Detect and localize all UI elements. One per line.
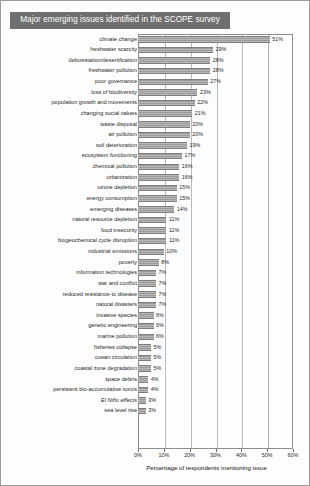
bar-row: El Niño effects3% xyxy=(1,395,310,406)
bar xyxy=(138,89,197,96)
bar-value-label: 14% xyxy=(177,207,188,212)
bar-container: 7% xyxy=(138,268,293,279)
bar-value-label: 10% xyxy=(166,249,177,254)
bar xyxy=(138,185,177,192)
bar xyxy=(138,270,156,277)
bar-row: food insecurity11% xyxy=(1,225,310,236)
bar-category-label: persistent bio-accumulative toxics xyxy=(9,387,137,393)
bar-container: 7% xyxy=(138,289,293,300)
bar-value-label: 4% xyxy=(151,387,159,392)
bar xyxy=(138,47,213,54)
bar-category-label: changing social values xyxy=(9,111,137,117)
bar-value-label: 7% xyxy=(159,292,167,297)
bar-category-label: ocean circulation xyxy=(9,355,137,361)
x-axis-title: Percentage of respondents mentioning iss… xyxy=(129,465,284,471)
bar-container: 5% xyxy=(138,342,293,353)
bar-container: 7% xyxy=(138,278,293,289)
bar-value-label: 23% xyxy=(200,90,211,95)
bar-category-label: natural resource depletion xyxy=(9,217,137,223)
bar-row: freshwater pollution28% xyxy=(1,66,310,77)
bar-value-label: 22% xyxy=(197,100,208,105)
bar xyxy=(138,227,166,234)
bar xyxy=(138,249,164,256)
bar-row: industrial emissions10% xyxy=(1,247,310,258)
bar xyxy=(138,408,146,415)
bar-category-label: air pollution xyxy=(9,132,137,138)
bar-container: 21% xyxy=(138,108,293,119)
bar-value-label: 3% xyxy=(148,398,156,403)
bar-value-label: 29% xyxy=(215,47,226,52)
bar-row: marine pollution6% xyxy=(1,332,310,343)
bar-category-label: coastal zone degradation xyxy=(9,366,137,372)
bar-value-label: 15% xyxy=(179,185,190,190)
bar-row: emerging diseases14% xyxy=(1,204,310,215)
bar xyxy=(138,153,182,160)
bar xyxy=(138,121,190,128)
bar-container: 7% xyxy=(138,300,293,311)
bar-row: changing social values21% xyxy=(1,108,310,119)
bar-category-label: genetic engineering xyxy=(9,323,137,329)
bar-category-label: poor governance xyxy=(9,79,137,85)
bar-container: 5% xyxy=(138,363,293,374)
bar-row: biogeochemical cycle disruption11% xyxy=(1,236,310,247)
chart-title: Major emerging issues identified in the … xyxy=(20,16,220,24)
bar-category-label: deforestation/desertification xyxy=(9,58,137,64)
bar-rows: climate change51%freshwater scarcity29%d… xyxy=(1,34,310,449)
bar-container: 15% xyxy=(138,193,293,204)
bar-category-label: climate change xyxy=(9,37,137,43)
bar-category-label: war and conflict xyxy=(9,281,137,287)
bar-row: population growth and movements22% xyxy=(1,98,310,109)
bar xyxy=(138,36,270,43)
bar-row: waste disposal20% xyxy=(1,119,310,130)
bar-container: 14% xyxy=(138,204,293,215)
bar-category-label: ecosystem functioning xyxy=(9,153,137,159)
bar-value-label: 8% xyxy=(161,260,169,265)
bar-category-label: space debris xyxy=(9,377,137,383)
bar-category-label: reduced resistance to disease xyxy=(9,292,137,298)
bar-container: 5% xyxy=(138,353,293,364)
bar-row: sea level rise3% xyxy=(1,406,310,417)
bar-category-label: natural disasters xyxy=(9,302,137,308)
bar xyxy=(138,280,156,287)
bar-row: urbanization16% xyxy=(1,172,310,183)
bar-value-label: 11% xyxy=(169,238,179,243)
bar-value-label: 7% xyxy=(159,281,167,286)
bar-value-label: 28% xyxy=(213,68,224,73)
bar-value-label: 51% xyxy=(272,37,283,42)
bar-value-label: 7% xyxy=(159,302,167,307)
bar-container: 8% xyxy=(138,257,293,268)
bar xyxy=(138,164,179,171)
bar-container: 16% xyxy=(138,172,293,183)
x-axis: 0%10%20%30%40%50%60% xyxy=(138,449,293,463)
bar xyxy=(138,142,187,149)
bar-value-label: 16% xyxy=(182,164,193,169)
bar-category-label: fisheries collapse xyxy=(9,345,137,351)
x-axis-tick-label: 50% xyxy=(262,453,273,458)
bar xyxy=(138,302,156,309)
bar-value-label: 6% xyxy=(156,323,164,328)
bar xyxy=(138,387,148,394)
bar xyxy=(138,174,179,181)
bar-category-label: soil deterioration xyxy=(9,143,137,149)
bar-value-label: 20% xyxy=(192,132,203,137)
bar-value-label: 11% xyxy=(169,228,179,233)
chart-figure: Major emerging issues identified in the … xyxy=(0,0,310,486)
bar-value-label: 21% xyxy=(195,111,206,116)
bar-row: deforestation/desertification28% xyxy=(1,55,310,66)
bar-container: 4% xyxy=(138,385,293,396)
bar-container: 16% xyxy=(138,162,293,173)
bar xyxy=(138,100,195,107)
bar-value-label: 7% xyxy=(159,270,167,275)
bar-container: 3% xyxy=(138,406,293,417)
bar-category-label: marine pollution xyxy=(9,334,137,340)
bar xyxy=(138,238,166,245)
bar-container: 19% xyxy=(138,140,293,151)
bar xyxy=(138,79,208,86)
bar xyxy=(138,312,154,319)
x-axis-tick-label: 10% xyxy=(158,453,169,458)
bar-value-label: 27% xyxy=(210,79,221,84)
bar xyxy=(138,397,146,404)
bar-category-label: freshwater pollution xyxy=(9,68,137,74)
bar-value-label: 11% xyxy=(169,217,179,222)
bar-category-label: freshwater scarcity xyxy=(9,47,137,53)
